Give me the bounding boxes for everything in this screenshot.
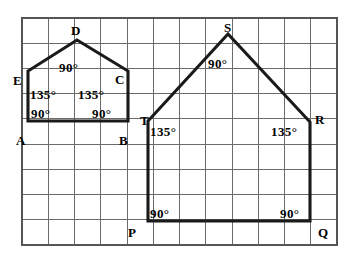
- angle-B: 90°: [92, 106, 111, 121]
- angle-R: 135°: [271, 124, 297, 139]
- angle-E: 135°: [30, 87, 56, 102]
- angle-C: 135°: [78, 87, 104, 102]
- geometry-diagram: 90°135°135°90°90°90°135°135°90°90° ABCDE…: [0, 0, 350, 261]
- angle-Q: 90°: [280, 206, 299, 221]
- vertex-label-Q: Q: [318, 225, 328, 240]
- vertex-label-C: C: [115, 72, 124, 87]
- angle-T: 135°: [150, 124, 176, 139]
- vertex-label-R: R: [315, 112, 325, 127]
- vertex-label-P: P: [128, 225, 136, 240]
- angle-S: 90°: [208, 56, 227, 71]
- vertex-label-S: S: [224, 20, 231, 35]
- vertex-label-A: A: [16, 133, 26, 148]
- angle-A: 90°: [31, 106, 50, 121]
- vertex-label-D: D: [71, 23, 80, 38]
- vertex-label-T: T: [140, 113, 149, 128]
- vertex-label-E: E: [13, 73, 22, 88]
- vertex-label-B: B: [119, 133, 128, 148]
- angle-D: 90°: [59, 60, 78, 75]
- angle-labels: 90°135°135°90°90°90°135°135°90°90°: [30, 56, 299, 221]
- geometry-figure: 90°135°135°90°90°90°135°135°90°90° ABCDE…: [0, 0, 350, 261]
- angle-P: 90°: [150, 206, 169, 221]
